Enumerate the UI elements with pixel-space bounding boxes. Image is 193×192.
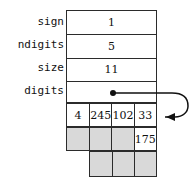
struct-row-size: 11: [67, 58, 156, 81]
pointer-dot-icon: [110, 90, 116, 96]
struct-row-digits: [67, 81, 156, 104]
struct-row-sign: 1: [67, 11, 156, 34]
field-label-digits: digits: [4, 85, 64, 96]
struct-value-size: 11: [105, 64, 119, 75]
struct-pointer-diagram: sign ndigits size digits 1 5 11 4 245 10…: [0, 0, 193, 192]
array-cell: [134, 152, 156, 176]
array-row-middle: 175: [66, 127, 157, 151]
array-cell: [67, 128, 89, 150]
struct-value-ndigits: 5: [108, 41, 115, 52]
array-cell: [112, 152, 134, 176]
array-row-top: 4 245 102 33: [66, 103, 157, 127]
array-cell: 102: [111, 104, 133, 126]
field-label-ndigits: ndigits: [4, 39, 64, 50]
field-label-sign: sign: [4, 16, 64, 27]
struct-box: 1 5 11: [66, 10, 157, 103]
array-cell: 33: [134, 104, 156, 126]
array-cell: 4: [67, 104, 89, 126]
struct-value-sign: 1: [108, 17, 115, 28]
field-label-size: size: [4, 62, 64, 73]
array-row-bottom: [89, 151, 157, 177]
array-cell: [89, 128, 111, 150]
struct-row-ndigits: 5: [67, 34, 156, 57]
array-cell: [111, 128, 133, 150]
array-cell: 175: [134, 128, 156, 150]
array-cell: [90, 152, 112, 176]
array-cell: 245: [89, 104, 111, 126]
